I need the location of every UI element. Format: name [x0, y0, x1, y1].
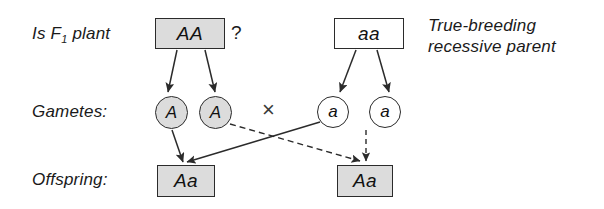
arrow-aa-to-gamete-a-left	[340, 50, 356, 92]
f1-label-tail: plant	[67, 24, 110, 43]
arrow-gamete-a-left-to-offspring-left	[187, 122, 320, 162]
gamete-a-right-label: a	[380, 102, 389, 122]
gamete-a-left: a	[317, 96, 349, 128]
recessive-parent-genotype-text: aa	[358, 23, 380, 45]
f1-parent-genotype-text: AA	[177, 23, 203, 45]
gamete-A-right: A	[199, 96, 232, 129]
f1-parent-genotype-box: AA	[155, 18, 225, 49]
offspring-right-box: Aa	[337, 165, 393, 197]
recessive-parent-genotype-box: aa	[334, 18, 404, 49]
gametes-row-label: Gametes:	[32, 102, 107, 122]
genetics-testcross-diagram: Is F1 plant AA ? aa True-breeding recess…	[0, 0, 604, 209]
true-breeding-note-line2: recessive parent	[428, 36, 556, 57]
f1-label-text: Is F	[32, 24, 61, 43]
gamete-A-left-label: A	[166, 103, 177, 123]
offspring-right-genotype-text: Aa	[353, 170, 377, 192]
arrow-aa-to-gamete-a-right	[377, 50, 389, 92]
arrow-AA-to-gamete-A-right	[205, 50, 215, 92]
question-mark: ?	[231, 22, 242, 44]
gamete-a-left-label: a	[328, 102, 337, 122]
offspring-left-genotype-text: Aa	[174, 170, 198, 192]
offspring-row-label: Offspring:	[32, 170, 108, 190]
true-breeding-note-line1: True-breeding	[428, 15, 556, 36]
cross-symbol: ×	[262, 97, 275, 123]
gamete-a-right: a	[369, 96, 401, 128]
true-breeding-note: True-breeding recessive parent	[428, 15, 556, 57]
arrow-AA-to-gamete-A-left	[168, 50, 177, 92]
gamete-A-left: A	[155, 96, 188, 129]
f1-parent-row-label: Is F1 plant	[32, 24, 110, 45]
gamete-A-right-label: A	[210, 103, 221, 123]
arrow-gameteAleft-to-offspring-left	[172, 130, 183, 162]
offspring-left-box: Aa	[157, 165, 215, 197]
